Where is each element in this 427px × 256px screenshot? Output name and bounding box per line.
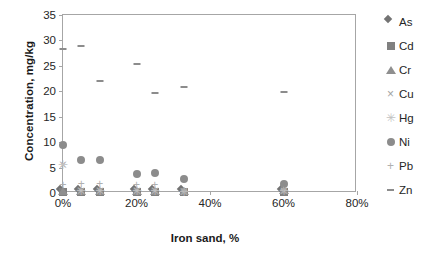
x-axis-tick-label: 20% <box>125 197 148 209</box>
legend-item-pb: +Pb <box>384 154 427 178</box>
y-axis-tick <box>59 40 63 41</box>
dash-icon <box>384 189 397 191</box>
circle-icon <box>384 138 397 146</box>
data-point-pb: + <box>96 180 103 188</box>
data-point-pb: + <box>133 181 140 189</box>
y-axis-tick-label: 10 <box>43 136 56 148</box>
legend-label: Pb <box>397 160 413 172</box>
y-axis-title: Concentration, mg/kg <box>23 6 35 196</box>
y-axis-tick <box>59 15 63 16</box>
data-point-pb: + <box>280 186 287 194</box>
data-point-ni <box>133 170 141 178</box>
x-axis-tick <box>210 191 211 195</box>
y-axis-tick-label: 5 <box>50 162 56 174</box>
data-point-zn <box>96 80 103 82</box>
scatter-chart: Concentration, mg/kg 051015202530350%20%… <box>0 0 427 256</box>
x-axis-title: Iron sand, % <box>55 232 355 244</box>
data-point-zn <box>133 63 140 65</box>
data-point-pb: + <box>59 181 66 189</box>
y-axis-tick-label: 20 <box>43 85 56 97</box>
x-axis-tick-label: 0% <box>55 197 72 209</box>
star-icon: ✳ <box>384 114 397 122</box>
data-point-zn <box>280 91 287 93</box>
data-point-ni <box>180 175 188 183</box>
data-point-ni <box>59 141 67 149</box>
cross-icon: × <box>384 90 397 98</box>
data-point-pb: + <box>78 180 85 188</box>
legend-item-ni: Ni <box>384 130 427 154</box>
legend-label: Ni <box>397 136 410 148</box>
x-axis-tick-label: 40% <box>198 197 221 209</box>
plot-area: 051015202530350%20%40%60%80%×××××××✳✳✳✳✳… <box>62 14 356 192</box>
legend-label: Hg <box>397 112 414 124</box>
y-axis-tick-label: 25 <box>43 60 56 72</box>
y-axis-tick <box>59 91 63 92</box>
triangle-icon <box>384 66 397 74</box>
legend-label: As <box>397 16 412 28</box>
plus-icon: + <box>384 162 397 170</box>
legend-label: Cu <box>397 88 414 100</box>
y-axis-tick <box>59 117 63 118</box>
data-point-zn <box>60 48 67 50</box>
y-axis-tick-label: 30 <box>43 34 56 46</box>
y-axis-tick-label: 15 <box>43 111 56 123</box>
legend-item-as: As <box>384 10 427 34</box>
legend: AsCdCr×Cu✳HgNi+PbZn <box>384 10 427 202</box>
legend-item-cr: Cr <box>384 58 427 82</box>
legend-item-cd: Cd <box>384 34 427 58</box>
data-point-ni <box>96 156 104 164</box>
data-point-ni <box>77 156 85 164</box>
data-point-zn <box>78 45 85 47</box>
x-axis-tick-label: 60% <box>272 197 295 209</box>
legend-item-cu: ×Cu <box>384 82 427 106</box>
legend-label: Zn <box>397 184 412 196</box>
data-point-ni <box>151 169 159 177</box>
legend-label: Cd <box>397 40 414 52</box>
x-axis-tick-label: 80% <box>345 197 368 209</box>
x-axis-tick <box>357 191 358 195</box>
data-point-zn <box>151 92 158 94</box>
diamond-icon <box>384 19 397 25</box>
data-point-hg: ✳ <box>58 161 68 169</box>
data-point-pb: + <box>181 187 188 195</box>
legend-item-zn: Zn <box>384 178 427 202</box>
square-icon <box>384 42 397 50</box>
data-point-pb: + <box>151 181 158 189</box>
y-axis-tick-label: 35 <box>43 9 56 21</box>
y-axis-tick <box>59 66 63 67</box>
legend-label: Cr <box>397 64 411 76</box>
data-point-zn <box>181 86 188 88</box>
legend-item-hg: ✳Hg <box>384 106 427 130</box>
